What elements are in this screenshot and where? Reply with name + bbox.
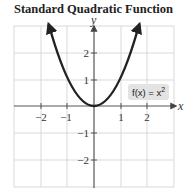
- x-tick-label: −1: [60, 111, 72, 123]
- x-tick-label: 1: [118, 111, 124, 123]
- y-tick-label: 1: [84, 74, 90, 86]
- curve-arrow-left: [49, 24, 52, 31]
- y-tick-label: −2: [77, 154, 89, 166]
- y-tick-label: 2: [84, 47, 90, 59]
- chart-plot: −2 −1 1 2 2 1 −1 −2 x y f(x) = x2: [0, 0, 187, 191]
- y-axis-label: y: [90, 13, 97, 27]
- x-axis-label: x: [177, 99, 184, 113]
- curve-arrow-right: [137, 24, 140, 31]
- function-label: f(x) = x2: [128, 84, 169, 100]
- svg-text:f(x) = x2: f(x) = x2: [132, 86, 165, 98]
- x-tick-label: −2: [35, 111, 47, 123]
- x-tick-label: 2: [144, 111, 150, 123]
- y-tick-label: −1: [77, 127, 89, 139]
